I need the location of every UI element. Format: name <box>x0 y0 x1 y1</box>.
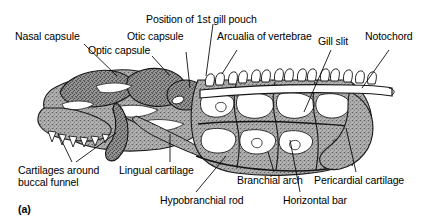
label-otic-capsule: Otic capsule <box>127 31 184 43</box>
label-cartilages-around-buccal-funnel-line2: buccal funnel <box>18 177 79 189</box>
label-gill-slit: Gill slit <box>318 36 348 48</box>
label-cartilages-around-buccal-funnel-line1: Cartilages around <box>18 165 99 177</box>
label-optic-capsule: Optic capsule <box>88 45 150 57</box>
label-arcualia-of-vertebrae: Arcualia of vertebrae <box>217 31 312 43</box>
label-branchial-arch: Branchial arch <box>237 175 303 187</box>
figure-lamprey-skeleton: Nasal capsule Optic capsule Otic capsule… <box>0 0 435 221</box>
label-horizontal-bar: Horizontal bar <box>283 195 347 207</box>
label-position-1st-gill-pouch: Position of 1st gill pouch <box>146 14 257 26</box>
leader-arcualia <box>222 50 237 74</box>
label-nasal-capsule: Nasal capsule <box>15 31 80 43</box>
label-pericardial-cartilage: Pericardial cartilage <box>314 175 404 187</box>
label-notochord: Notochord <box>365 31 413 43</box>
leader-1st-gill-pouch <box>206 24 213 76</box>
label-lingual-cartilage: Lingual cartilage <box>119 165 194 177</box>
panel-identifier: (a) <box>18 203 31 215</box>
label-hypobranchial-rod: Hypobranchial rod <box>160 195 244 207</box>
cranial-cartilage-group <box>38 68 207 160</box>
